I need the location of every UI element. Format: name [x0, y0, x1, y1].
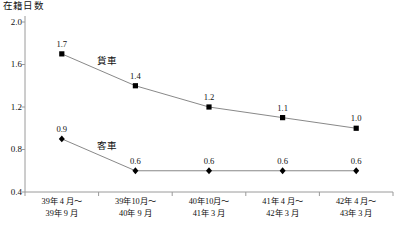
- data-point-marker: [206, 167, 212, 174]
- x-axis-category-label: 41年 4 月～42年 3 月: [246, 196, 320, 228]
- data-point-label: 0.6: [351, 156, 362, 166]
- x-axis-category-line1: 39年 4 月～: [42, 197, 83, 206]
- series-name-label: 客車: [97, 140, 117, 151]
- x-axis-category-label: 42年 4 月～43年 3 月: [319, 196, 393, 228]
- x-axis-category-label: 39年 4 月～39年 9 月: [25, 196, 99, 228]
- series-2: 0.90.60.60.60.6客車: [56, 124, 362, 174]
- data-point-marker: [59, 51, 64, 56]
- x-axis-category-line1: 39年10月～: [115, 197, 156, 206]
- x-axis-tick-labels: 39年 4 月～39年 9 月39年10月～40年 9 月40年10月～41年 …: [25, 196, 393, 228]
- chart-container: 在籍日数 0.40.81.21.62.0 1.71.41.21.11.0貨車0.…: [0, 0, 398, 229]
- x-axis-category-label: 40年10月～41年 3 月: [172, 196, 246, 228]
- data-point-marker: [206, 104, 211, 109]
- data-point-label: 0.9: [56, 124, 67, 134]
- data-point-marker: [133, 83, 138, 88]
- data-point-marker: [59, 135, 65, 142]
- x-axis-category-line2: 41年 3 月: [172, 208, 246, 220]
- x-axis-category-line1: 40年10月～: [189, 197, 230, 206]
- data-point-marker: [354, 126, 359, 131]
- x-axis-category-line2: 39年 9 月: [25, 208, 99, 220]
- data-point-label: 1.7: [56, 39, 67, 49]
- x-axis-category-line1: 41年 4 月～: [262, 197, 303, 206]
- x-axis-category-label: 39年10月～40年 9 月: [99, 196, 173, 228]
- data-point-label: 1.2: [204, 92, 215, 102]
- x-axis-category-line2: 42年 3 月: [246, 208, 320, 220]
- data-point-marker: [132, 167, 138, 174]
- series-1: 1.71.41.21.11.0貨車: [56, 39, 361, 131]
- data-point-marker: [280, 115, 285, 120]
- data-point-label: 1.4: [130, 71, 141, 81]
- plot-area: 1.71.41.21.11.0貨車0.90.60.60.60.6客車: [0, 0, 398, 229]
- data-point-marker: [353, 167, 359, 174]
- x-axis-category-line1: 42年 4 月～: [336, 197, 377, 206]
- x-axis-category-line2: 43年 3 月: [319, 208, 393, 220]
- data-point-label: 1.0: [351, 113, 362, 123]
- data-point-label: 0.6: [277, 156, 288, 166]
- series-name-label: 貨車: [97, 55, 117, 66]
- data-point-marker: [280, 167, 286, 174]
- data-point-label: 1.1: [277, 103, 288, 113]
- data-point-label: 0.6: [130, 156, 141, 166]
- x-axis-category-line2: 40年 9 月: [99, 208, 173, 220]
- data-point-label: 0.6: [204, 156, 215, 166]
